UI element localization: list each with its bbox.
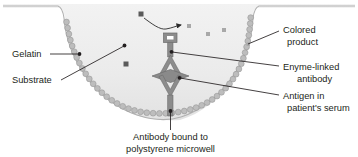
label-antibody-bound: Antibody bound to polystyrene microwell: [126, 132, 215, 154]
leader-dot-gelatin: [78, 52, 82, 56]
label-colored-product-line2: product: [287, 37, 318, 47]
label-enzyme-linked-antibody: Enyme-linked antibody: [283, 62, 339, 84]
product-particle: [222, 28, 226, 32]
label-colored-product-line1: Colored: [283, 25, 316, 35]
label-gelatin-text: Gelatin: [12, 49, 41, 59]
product-particle: [206, 32, 210, 36]
leader-dot-substrate: [123, 44, 127, 48]
label-substrate: Substrate: [12, 75, 52, 85]
label-antigen-in-serum: Antigen in patient's serum: [283, 91, 350, 113]
leader-dot-antigen: [178, 76, 182, 80]
label-gelatin: Gelatin: [12, 49, 41, 59]
label-antigen-line1: Antigen in: [283, 91, 324, 101]
label-enzyme-antibody-line2: antibody: [297, 74, 333, 84]
label-colored-product: Colored product: [283, 25, 318, 47]
diagram-canvas: Gelatin Substrate Colored product Enyme-…: [0, 0, 358, 157]
substrate-particle: [124, 62, 129, 67]
enzyme-box-center: [167, 36, 174, 40]
label-enzyme-antibody-line1: Enyme-linked: [283, 62, 339, 72]
label-antibody-bound-line1: Antibody bound to: [133, 132, 208, 142]
label-antibody-bound-line2: polystyrene microwell: [126, 144, 215, 154]
leader-dot-bound: [169, 109, 173, 113]
leader-dot-enzyme: [170, 50, 174, 54]
label-substrate-text: Substrate: [12, 75, 52, 85]
elisa-diagram: Gelatin Substrate Colored product Enyme-…: [0, 0, 358, 157]
substrate-particle: [139, 12, 144, 17]
leader-colored-product: [248, 31, 279, 44]
product-particle: [187, 24, 191, 28]
label-antigen-line2: patient's serum: [287, 103, 350, 113]
